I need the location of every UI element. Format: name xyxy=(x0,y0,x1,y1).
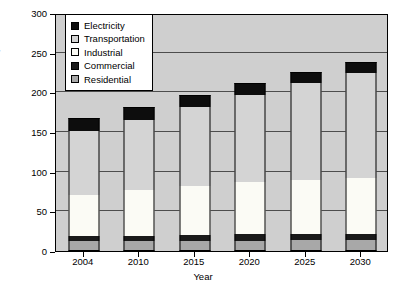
bar-2004 xyxy=(68,118,99,251)
y-tick-label-100: 100 xyxy=(0,168,47,178)
bar-2020 xyxy=(235,83,266,251)
gridline-150 xyxy=(56,131,387,132)
bar-segment-2010-industrial xyxy=(124,190,155,236)
legend: ElectricityTransportationIndustrialComme… xyxy=(65,14,153,91)
bar-chart: 050100150200250300 Consumption/1015 Btu … xyxy=(0,0,406,289)
y-tick-mark-50 xyxy=(50,212,55,213)
gridline-50 xyxy=(56,210,387,211)
x-tick-label-2025: 2025 xyxy=(294,256,315,267)
bar-segment-2020-electricity xyxy=(235,83,266,95)
x-tick-label-2020: 2020 xyxy=(239,256,260,267)
legend-swatch-electricity xyxy=(71,22,79,30)
legend-label-electricity: Electricity xyxy=(84,21,125,31)
y-tick-mark-100 xyxy=(50,173,55,174)
bar-segment-2030-industrial xyxy=(346,178,377,234)
x-tick-mark-2004 xyxy=(83,252,84,257)
legend-item-commercial: Commercial xyxy=(71,59,145,72)
legend-swatch-residential xyxy=(71,75,79,83)
gridline-100 xyxy=(56,171,387,172)
y-tick-mark-150 xyxy=(50,133,55,134)
bar-segment-2004-industrial xyxy=(68,195,99,236)
legend-label-residential: Residential xyxy=(84,75,131,85)
bar-segment-2025-industrial xyxy=(290,180,321,234)
legend-item-residential: Residential xyxy=(71,73,145,86)
x-tick-label-2015: 2015 xyxy=(183,256,204,267)
legend-item-electricity: Electricity xyxy=(71,19,145,32)
bar-segment-2025-transportation xyxy=(290,83,321,180)
x-tick-label-2004: 2004 xyxy=(72,256,93,267)
legend-label-commercial: Commercial xyxy=(84,61,135,71)
bar-segment-2010-transportation xyxy=(124,120,155,190)
bar-segment-2015-industrial xyxy=(179,186,210,235)
y-tick-label-0: 0 xyxy=(0,247,47,257)
y-tick-mark-0 xyxy=(50,252,55,253)
bar-segment-2020-residential xyxy=(235,241,266,251)
bar-segment-2010-electricity xyxy=(124,107,155,120)
bar-segment-2015-residential xyxy=(179,241,210,251)
y-tick-label-300: 300 xyxy=(0,9,47,19)
y-tick-mark-300 xyxy=(50,14,55,15)
legend-swatch-industrial xyxy=(71,48,79,56)
legend-label-industrial: Industrial xyxy=(84,48,123,58)
bar-segment-2004-electricity xyxy=(68,118,99,131)
y-tick-label-200: 200 xyxy=(0,89,47,99)
x-tick-label-2030: 2030 xyxy=(350,256,371,267)
bar-segment-2025-electricity xyxy=(290,72,321,83)
gridline-200 xyxy=(56,91,387,92)
y-tick-mark-250 xyxy=(50,54,55,55)
bar-segment-2025-residential xyxy=(290,240,321,251)
bar-segment-2015-transportation xyxy=(179,107,210,186)
bar-segment-2020-industrial xyxy=(235,182,266,234)
bar-2025 xyxy=(290,72,321,251)
legend-swatch-commercial xyxy=(71,62,79,70)
y-tick-mark-200 xyxy=(50,93,55,94)
bar-segment-2020-transportation xyxy=(235,95,266,182)
y-tick-label-150: 150 xyxy=(0,128,47,138)
bar-segment-2030-transportation xyxy=(346,73,377,178)
bar-segment-2030-residential xyxy=(346,240,377,251)
bar-segment-2030-electricity xyxy=(346,62,377,73)
legend-label-transportation: Transportation xyxy=(84,34,145,44)
x-tick-mark-2010 xyxy=(138,252,139,257)
bar-2015 xyxy=(179,95,210,251)
legend-item-transportation: Transportation xyxy=(71,32,145,45)
x-tick-mark-2015 xyxy=(194,252,195,257)
x-tick-label-2010: 2010 xyxy=(128,256,149,267)
bar-2030 xyxy=(346,62,377,251)
bar-segment-2004-transportation xyxy=(68,131,99,194)
x-tick-mark-2030 xyxy=(360,252,361,257)
x-axis-title: Year xyxy=(0,271,406,282)
bar-segment-2015-electricity xyxy=(179,95,210,107)
x-tick-mark-2025 xyxy=(305,252,306,257)
legend-item-industrial: Industrial xyxy=(71,46,145,59)
x-tick-mark-2020 xyxy=(249,252,250,257)
legend-swatch-transportation xyxy=(71,35,79,43)
bar-segment-2004-residential xyxy=(68,241,99,251)
y-tick-label-250: 250 xyxy=(0,49,47,59)
bar-2010 xyxy=(124,107,155,251)
bar-segment-2010-residential xyxy=(124,241,155,251)
y-tick-label-50: 50 xyxy=(0,208,47,218)
